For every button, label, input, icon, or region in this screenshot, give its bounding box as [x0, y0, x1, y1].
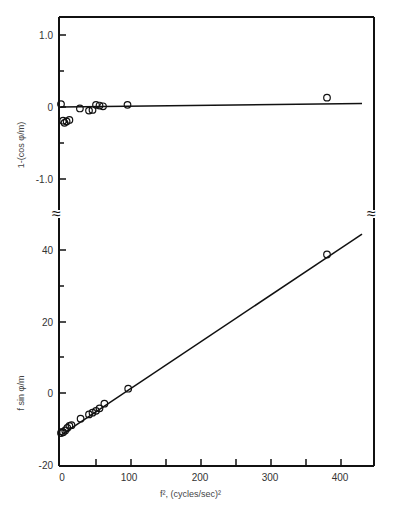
plot-frame — [59, 17, 374, 466]
x-ticks — [96, 459, 341, 466]
break-symbol-left: ≈ — [52, 205, 61, 222]
break-symbol-right: ≈ — [367, 205, 376, 222]
axis-break-right: ≈ — [367, 205, 381, 222]
data-point — [324, 94, 331, 101]
bottom-plot-data — [58, 234, 362, 436]
tick-label: 20 — [42, 317, 54, 328]
chart-canvas: ≈ ≈ 1.0 0 -1.0 1-(cos φ/m) 40 20 0 -20 f… — [0, 0, 395, 513]
fit-line — [61, 234, 362, 435]
tick-label: 0 — [47, 388, 53, 399]
tick-label: 1.0 — [39, 30, 53, 41]
data-point — [124, 102, 131, 109]
x-axis-label: f², (cycles/sec)² — [160, 489, 221, 499]
tick-label: 100 — [121, 472, 138, 483]
top-y-axis-label: 1-(cos φ/m) — [16, 122, 26, 168]
tick-label: 300 — [262, 472, 279, 483]
tick-label: 400 — [332, 472, 349, 483]
tick-label: 0 — [59, 472, 65, 483]
bottom-y-ticks — [59, 250, 66, 429]
bottom-y-tick-labels: 40 20 0 -20 — [39, 245, 54, 471]
top-y-tick-labels: 1.0 0 -1.0 — [36, 30, 54, 185]
tick-label: 200 — [192, 472, 209, 483]
tick-label: 0 — [47, 102, 53, 113]
tick-label: 40 — [42, 245, 54, 256]
top-plot-data — [58, 94, 362, 126]
axis-break-left: ≈ — [52, 205, 66, 222]
tick-label: -20 — [39, 460, 54, 471]
x-tick-labels: 0 100 200 300 400 — [59, 472, 349, 483]
bottom-y-axis-label: f sin φ/m — [16, 376, 26, 411]
tick-label: -1.0 — [36, 174, 54, 185]
